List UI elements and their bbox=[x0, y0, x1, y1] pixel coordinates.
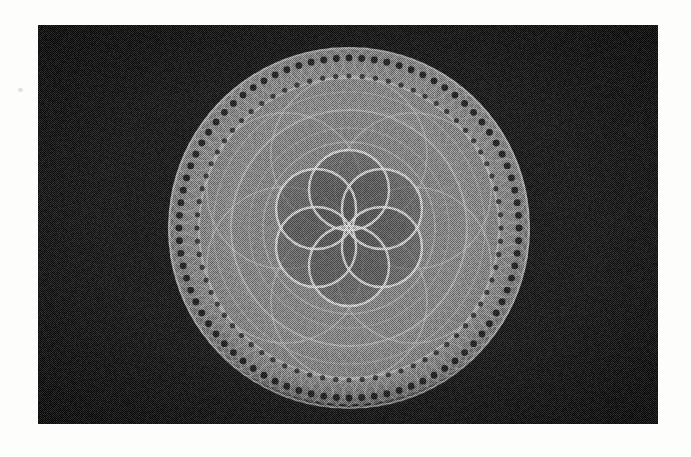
paper-speck bbox=[18, 88, 23, 92]
rosette-svg bbox=[38, 25, 658, 424]
figure-page bbox=[0, 0, 691, 457]
photographic-plate bbox=[38, 25, 658, 424]
